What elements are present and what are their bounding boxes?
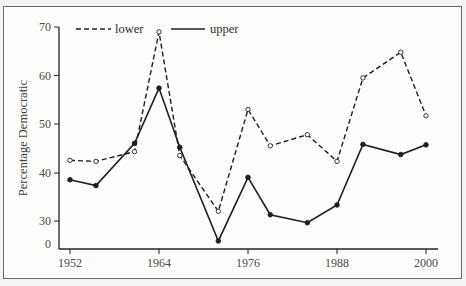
line-chart: 70 60 50 40 30 0 1952 1964 1976 1988 200… [0, 0, 466, 286]
upper-data-point [398, 152, 403, 157]
upper-data-point [268, 212, 273, 217]
upper-data-point [216, 239, 221, 244]
y-tick-label-40: 40 [39, 166, 51, 180]
y-tick-label-60: 60 [39, 69, 51, 83]
upper-data-point [361, 142, 366, 147]
legend-upper-label: upper [210, 22, 239, 36]
lower-data-point [361, 76, 365, 80]
upper-data-point [305, 220, 310, 225]
upper-data-point [424, 143, 429, 148]
lower-data-point [335, 159, 339, 163]
y-ticks: 70 60 50 40 30 0 [39, 20, 59, 251]
x-ticks: 1952 1964 1976 1988 2000 [58, 249, 438, 270]
upper-data-point [246, 175, 251, 180]
y-tick-label-70: 70 [39, 20, 51, 34]
y-tick-label-30: 30 [39, 214, 51, 228]
lower-data-point [178, 153, 182, 157]
upper-data-point [132, 141, 137, 146]
upper-data-point [177, 145, 182, 150]
lower-data-point [157, 30, 161, 34]
lower-data-point [305, 132, 309, 136]
lower-data-point [216, 209, 220, 213]
upper-data-point [68, 177, 73, 182]
lower-data-point [68, 158, 72, 162]
lower-data-point [268, 144, 272, 148]
lower-data-point [399, 50, 403, 54]
upper-data-point [157, 86, 162, 91]
upper-data-point [335, 203, 340, 208]
x-tick-label-1964: 1964 [147, 256, 171, 270]
x-tick-label-1952: 1952 [58, 256, 82, 270]
y-tick-label-50: 50 [39, 117, 51, 131]
legend-lower-label: lower [115, 22, 144, 36]
lower-data-point [424, 114, 428, 118]
lower-data-point [132, 149, 136, 153]
y-axis-title: Percentage Democratic [16, 79, 30, 196]
lower-polyline [70, 32, 426, 211]
lower-data-point [94, 159, 98, 163]
y-tick-label-0: 0 [45, 237, 51, 251]
x-tick-label-1988: 1988 [325, 256, 349, 270]
lower-data-point [246, 107, 250, 111]
x-tick-label-2000: 2000 [414, 256, 438, 270]
upper-data-point [94, 183, 99, 188]
x-tick-label-1976: 1976 [236, 256, 260, 270]
series-lower-line [68, 30, 428, 214]
